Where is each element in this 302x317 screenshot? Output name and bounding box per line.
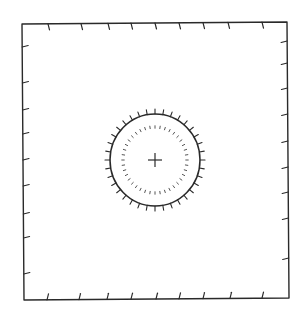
- circle-tick: [178, 200, 181, 204]
- circle-tick: [146, 110, 147, 115]
- frame-tick-top: [262, 22, 264, 28]
- circle-tick: [170, 203, 172, 208]
- ring-dot: [135, 132, 136, 134]
- circle-tick: [189, 127, 193, 130]
- frame-tick-left: [23, 185, 29, 187]
- frame-tick-right: [281, 88, 287, 90]
- frame-tick-bottom: [262, 292, 264, 298]
- frame-tick-right: [282, 218, 288, 220]
- frame-tick-bottom: [107, 293, 109, 299]
- ring-dot: [169, 188, 170, 190]
- circle-tick: [108, 176, 113, 178]
- ring-dot: [173, 132, 174, 134]
- ring-dot: [140, 129, 141, 131]
- circle-tick: [199, 168, 204, 169]
- circle-tick: [123, 195, 126, 199]
- ring-dot: [177, 182, 179, 184]
- circle-tick: [184, 195, 187, 199]
- circle-tick: [197, 143, 202, 145]
- ring-dot: [184, 149, 186, 150]
- ring-dot: [184, 170, 186, 171]
- frame-tick-left: [23, 109, 29, 111]
- circle-tick: [130, 200, 133, 204]
- frame-tick-top: [108, 23, 110, 29]
- frame-tick-top: [81, 24, 83, 30]
- ring-dot: [180, 179, 182, 180]
- ring-dot: [145, 127, 146, 129]
- circle-tick: [112, 135, 116, 138]
- ring-dot: [165, 127, 166, 129]
- circle-tick: [163, 110, 164, 115]
- circle-tick: [170, 112, 172, 117]
- frame-tick-top: [179, 23, 181, 29]
- ring-dot: [169, 129, 170, 131]
- frame-tick-bottom: [131, 293, 133, 299]
- diagram-canvas: [0, 0, 302, 317]
- frame-tick-right: [282, 114, 288, 116]
- frame-tick-bottom: [79, 294, 81, 300]
- frame-tick-bottom: [47, 294, 49, 300]
- circle-tick: [138, 112, 140, 117]
- ring-dot: [131, 182, 133, 184]
- circle-tick: [163, 205, 164, 210]
- frame-tick-right: [281, 41, 287, 43]
- circle-tick: [123, 121, 126, 125]
- frame-tick-right: [281, 63, 287, 65]
- frame-tick-top: [155, 23, 157, 29]
- ring-dot: [177, 136, 179, 138]
- frame-tick-bottom: [230, 292, 232, 298]
- circle-tick: [112, 183, 116, 186]
- circle-tick: [117, 127, 121, 130]
- circle-tick: [117, 190, 121, 193]
- ring-dot: [131, 136, 133, 138]
- frame-tick-left: [22, 82, 28, 84]
- circle-tick: [106, 151, 111, 152]
- frame-tick-top: [228, 22, 230, 28]
- circle-tick: [146, 205, 147, 210]
- ring-dot: [145, 190, 146, 192]
- circle-tick: [184, 121, 187, 125]
- circle-tick: [199, 151, 204, 152]
- frame-tick-left: [23, 159, 29, 161]
- frame-tick-left: [24, 273, 30, 275]
- ring-dot: [123, 170, 125, 171]
- ring-dot: [182, 174, 184, 175]
- frame-tick-left: [22, 46, 28, 48]
- ring-dot: [125, 174, 127, 175]
- frame-tick-left: [24, 237, 30, 239]
- circle-tick: [106, 168, 111, 169]
- frame-tick-bottom: [203, 293, 205, 299]
- frame-tick-right: [282, 192, 288, 194]
- diagram-svg: [0, 0, 302, 317]
- frame-tick-right: [283, 258, 289, 260]
- ring-dot: [135, 186, 136, 188]
- ring-dot: [140, 188, 141, 190]
- circle-tick: [130, 116, 133, 120]
- ring-dot: [128, 179, 130, 180]
- circle-tick: [178, 116, 181, 120]
- circle-tick: [194, 183, 198, 186]
- circle-tick: [194, 135, 198, 138]
- circle-tick: [197, 176, 202, 178]
- ring-dot: [128, 140, 130, 141]
- ring-dot: [125, 144, 127, 145]
- frame-tick-bottom: [179, 293, 181, 299]
- ring-dot: [165, 190, 166, 192]
- frame-tick-left: [23, 213, 29, 215]
- frame-tick-top: [203, 23, 205, 29]
- frame-tick-right: [282, 141, 288, 143]
- circle-tick: [138, 203, 140, 208]
- ring-dot: [182, 144, 184, 145]
- frame-tick-bottom: [156, 293, 158, 299]
- frame-tick-right: [282, 167, 288, 169]
- frame-tick-top: [48, 24, 50, 30]
- frame-tick-left: [23, 133, 29, 135]
- ring-dot: [173, 186, 174, 188]
- circle-tick: [108, 143, 113, 145]
- center-cross-icon: [148, 153, 162, 167]
- ring-dot: [180, 140, 182, 141]
- circle-tick: [189, 190, 193, 193]
- frame-tick-top: [131, 23, 133, 29]
- ring-dot: [123, 149, 125, 150]
